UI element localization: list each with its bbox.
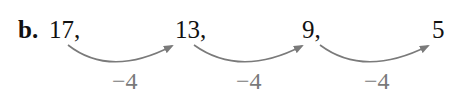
difference-1: −4 bbox=[112, 68, 138, 95]
arrow-icon bbox=[320, 45, 428, 62]
difference-3: −4 bbox=[364, 68, 390, 95]
arrow-icon bbox=[68, 45, 172, 62]
difference-2: −4 bbox=[236, 68, 262, 95]
arrow-icon bbox=[194, 45, 302, 62]
